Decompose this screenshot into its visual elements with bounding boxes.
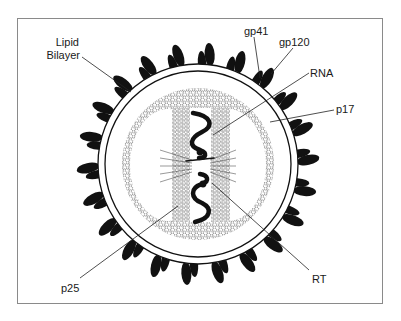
label-p25: p25	[61, 282, 79, 294]
label-lipid: Lipid	[48, 36, 79, 48]
label-rna: RNA	[310, 67, 333, 79]
label-gp41: gp41	[244, 25, 268, 37]
label-p17: p17	[336, 103, 354, 115]
label-rt: RT	[312, 273, 326, 285]
label-gp120: gp120	[279, 36, 310, 48]
label-bilayer: Bilayer	[40, 49, 80, 61]
